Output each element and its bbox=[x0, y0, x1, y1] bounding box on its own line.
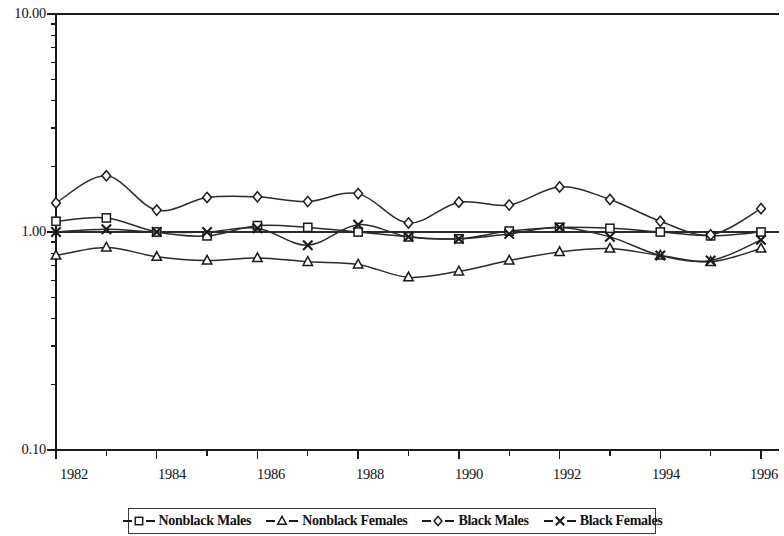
legend-item-black-females[interactable]: Black Females bbox=[536, 513, 670, 529]
nonblack-males-square-marker bbox=[304, 223, 312, 231]
black-females-x-marker bbox=[605, 232, 614, 241]
chart-plot-area bbox=[0, 0, 784, 536]
black-males-diamond-marker bbox=[455, 197, 464, 207]
black-males-diamond-marker bbox=[656, 216, 665, 226]
diamond-legend-icon bbox=[421, 514, 455, 528]
square-legend-icon bbox=[122, 514, 156, 528]
legend-square-marker bbox=[135, 517, 142, 524]
nonblack-males-square-marker bbox=[757, 228, 765, 236]
black-males-diamond-marker bbox=[52, 198, 61, 208]
x-axis-label-1986: 1986 bbox=[236, 466, 306, 483]
data-series-group bbox=[51, 171, 765, 281]
black-males-diamond-marker bbox=[757, 204, 766, 214]
legend-item-label: Nonblack Males bbox=[159, 513, 252, 529]
series-nonblack-females bbox=[51, 242, 765, 281]
x-axis-label-1990: 1990 bbox=[434, 466, 504, 483]
series-line bbox=[56, 225, 761, 262]
black-males-diamond-marker bbox=[606, 194, 615, 204]
x-axis-label-1994: 1994 bbox=[631, 466, 701, 483]
y-axis-label-0-1: 0.10 bbox=[0, 441, 46, 458]
black-males-diamond-marker bbox=[152, 205, 161, 215]
legend-diamond-marker bbox=[435, 516, 443, 525]
legend-item-nonblack-females[interactable]: Nonblack Females bbox=[258, 513, 414, 529]
black-males-diamond-marker bbox=[203, 192, 212, 202]
legend-triangle-marker bbox=[278, 516, 287, 524]
nonblack-females-triangle-marker bbox=[102, 242, 111, 251]
legend-item-nonblack-males[interactable]: Nonblack Males bbox=[115, 513, 259, 529]
legend-item-label: Black Females bbox=[580, 513, 663, 529]
chart-legend: Nonblack MalesNonblack FemalesBlack Male… bbox=[128, 508, 656, 534]
black-males-diamond-marker bbox=[303, 196, 312, 206]
black-males-diamond-marker bbox=[404, 218, 413, 228]
nonblack-males-square-marker bbox=[656, 228, 664, 236]
x-axis-label-1992: 1992 bbox=[532, 466, 602, 483]
y-axis-label-10: 10.00 bbox=[0, 5, 46, 22]
black-males-diamond-marker bbox=[555, 182, 564, 192]
black-males-diamond-marker bbox=[505, 200, 514, 210]
legend-item-label: Nonblack Females bbox=[302, 513, 407, 529]
black-males-diamond-marker bbox=[102, 171, 111, 181]
black-males-diamond-marker bbox=[354, 188, 363, 198]
chart-container: 10.00 1.00 0.10 1982 1984 1986 1988 1990… bbox=[0, 0, 784, 536]
nonblack-females-triangle-marker bbox=[253, 253, 262, 262]
triangle-legend-icon bbox=[265, 514, 299, 528]
x-axis-label-1982: 1982 bbox=[39, 466, 109, 483]
legend-item-label: Black Males bbox=[458, 513, 528, 529]
x-axis-label-1984: 1984 bbox=[137, 466, 207, 483]
legend-x-marker bbox=[555, 517, 564, 526]
nonblack-males-square-marker bbox=[102, 214, 110, 222]
y-axis-label-1: 1.00 bbox=[0, 223, 46, 240]
x-axis-label-1988: 1988 bbox=[335, 466, 405, 483]
x-legend-icon bbox=[543, 514, 577, 528]
x-axis-label-1996: 1996 bbox=[729, 466, 784, 483]
nonblack-females-triangle-marker bbox=[756, 243, 765, 252]
nonblack-males-square-marker bbox=[52, 217, 60, 225]
black-males-diamond-marker bbox=[253, 192, 262, 202]
legend-item-black-males[interactable]: Black Males bbox=[414, 513, 535, 529]
nonblack-males-square-marker bbox=[354, 228, 362, 236]
nonblack-males-square-marker bbox=[606, 224, 614, 232]
